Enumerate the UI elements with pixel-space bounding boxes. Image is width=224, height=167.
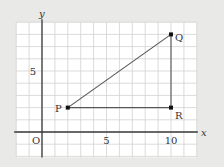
coordinate-diagram: PQR y x O 5105 — [0, 0, 224, 167]
x-tick-label: 10 — [165, 135, 178, 146]
point-label-R: R — [175, 110, 183, 121]
point-label-P: P — [55, 103, 62, 114]
point-marker-Q — [169, 32, 173, 36]
coordinate-grid-svg: PQR y x O 5105 — [0, 0, 224, 167]
point-marker-P — [66, 106, 70, 110]
x-tick-label: 5 — [103, 135, 109, 146]
y-tick-label: 5 — [30, 66, 36, 77]
point-label-Q: Q — [175, 32, 183, 43]
y-axis-label: y — [38, 8, 45, 19]
x-axis-label: x — [201, 127, 207, 138]
origin-label: O — [32, 135, 40, 146]
point-marker-R — [169, 106, 173, 110]
